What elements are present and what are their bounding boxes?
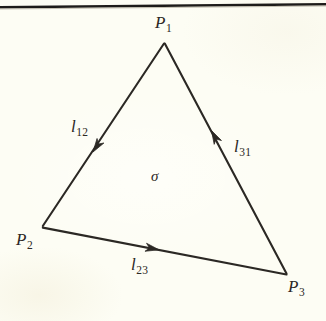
figure-canvas: P1 P2 P3 l12 l23 l31 σ [0,0,326,321]
vertex-label-p1-symbol: P [155,13,165,32]
vertex-label-p3-subscript: 3 [299,286,305,298]
edge-l31-segment [165,44,287,274]
edge-l12-segment [43,44,164,227]
face-label-sigma-symbol: σ [151,168,158,184]
vertex-label-p1: P1 [155,14,172,34]
edge-l23-segment [43,228,287,275]
edge-label-l23: l23 [131,256,148,276]
vertex-label-p1-subscript: 1 [166,22,172,34]
edge-label-l23-subscript: 23 [136,264,148,276]
vertex-label-p2-symbol: P [16,230,26,249]
simplex-diagram-svg [0,0,326,321]
edge-label-l12: l12 [71,118,88,138]
edge-label-l12-subscript: 12 [76,126,88,138]
face-label-sigma: σ [151,168,158,184]
vertex-label-p3-symbol: P [288,277,298,296]
edge-label-l31-subscript: 31 [239,146,251,158]
vertex-label-p2: P2 [16,231,33,251]
edge-l31 [165,44,287,274]
vertex-label-p2-subscript: 2 [27,239,33,251]
edge-l23 [43,228,287,275]
edge-label-l31: l31 [234,138,251,158]
edge-l12 [43,44,164,227]
vertex-label-p3: P3 [288,278,305,298]
